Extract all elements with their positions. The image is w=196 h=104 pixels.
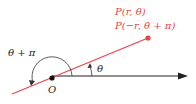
axis-arrowhead-icon: [178, 73, 188, 80]
theta-plus-pi-label: θ + π: [8, 47, 36, 58]
origin-point: [49, 75, 54, 80]
point-label-2: P(−r, θ + π): [114, 20, 175, 31]
point-label-1: P(r, θ): [114, 6, 146, 17]
origin-label: O: [48, 84, 56, 95]
point-p: [145, 35, 150, 40]
theta-label: θ: [97, 63, 103, 74]
theta-arrowhead-icon: [88, 63, 93, 68]
polar-diagram: P(r, θ) P(−r, θ + π) θ + π θ O: [0, 0, 196, 104]
